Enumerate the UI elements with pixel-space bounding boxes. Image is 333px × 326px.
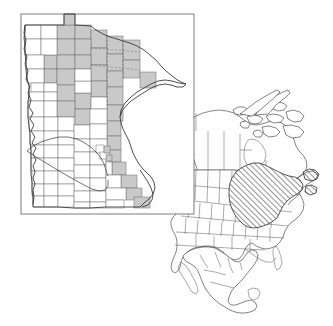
county-plain — [44, 171, 58, 184]
county-shaded — [44, 69, 57, 83]
hatched-range-newfoundland — [305, 185, 317, 195]
yucatan-peninsula-outline — [248, 288, 260, 300]
county-plain — [33, 196, 44, 207]
county-shaded — [75, 39, 91, 55]
county-shaded — [57, 55, 75, 69]
county-plain — [90, 124, 107, 139]
florida-peninsula-outline — [273, 246, 282, 270]
county-shaded — [134, 197, 150, 208]
county-shaded — [91, 30, 107, 48]
county-shaded — [75, 109, 91, 125]
county-plain — [26, 55, 44, 69]
county-plain — [106, 188, 126, 200]
county-plain — [31, 158, 44, 171]
county-plain — [90, 109, 107, 124]
county-shaded — [106, 155, 112, 161]
county-shaded — [57, 39, 75, 55]
county-shaded — [91, 48, 107, 65]
county-shaded — [91, 65, 107, 81]
county-shaded — [112, 162, 126, 175]
county-plain — [41, 39, 57, 55]
county-plain — [44, 145, 58, 158]
county-plain — [58, 158, 74, 171]
county-shaded — [44, 55, 57, 69]
county-plain — [25, 39, 41, 55]
county-plain — [74, 202, 90, 208]
county-shaded — [57, 101, 75, 117]
county-shaded — [75, 93, 91, 109]
county-plain — [44, 101, 57, 117]
county-plain — [75, 69, 91, 81]
county-shaded — [57, 85, 75, 101]
county-shaded — [57, 25, 75, 39]
county-shaded — [64, 14, 75, 25]
county-plain — [74, 125, 90, 139]
county-shaded — [104, 146, 110, 153]
county-plain — [29, 117, 44, 131]
county-plain — [74, 191, 90, 202]
county-plain — [44, 117, 58, 131]
county-shaded — [107, 121, 121, 136]
county-plain — [41, 25, 57, 39]
county-plain — [44, 83, 57, 92]
county-plain — [58, 117, 74, 131]
county-shaded — [57, 69, 75, 85]
county-plain — [27, 69, 44, 83]
county-plain — [58, 196, 74, 207]
figure-root: Minnesota eastern-deciduous-forest-range… — [0, 0, 333, 326]
county-plain — [74, 139, 90, 152]
county-shaded — [107, 54, 123, 71]
county-shaded — [123, 40, 140, 60]
county-shaded — [121, 175, 137, 188]
hatched-range-maritimes — [303, 169, 319, 181]
county-plain — [90, 165, 106, 178]
county-plain — [74, 165, 90, 178]
county-plain — [58, 184, 74, 196]
county-shaded — [107, 87, 123, 105]
map-figure — [0, 0, 333, 326]
county-plain — [44, 196, 58, 207]
county-plain — [74, 152, 90, 165]
county-plain — [58, 171, 74, 184]
county-plain — [90, 191, 106, 202]
county-plain — [32, 171, 44, 184]
county-plain — [25, 25, 41, 39]
county-plain — [44, 184, 58, 196]
county-plain — [31, 83, 44, 92]
county-plain — [31, 145, 44, 158]
county-shaded — [75, 25, 91, 39]
county-plain — [91, 97, 107, 109]
county-shaded — [75, 55, 91, 69]
county-plain — [74, 178, 90, 191]
county-shaded — [91, 81, 107, 97]
county-plain — [58, 145, 74, 158]
county-shaded — [107, 71, 123, 87]
county-plain — [75, 81, 91, 93]
county-plain — [44, 92, 57, 101]
